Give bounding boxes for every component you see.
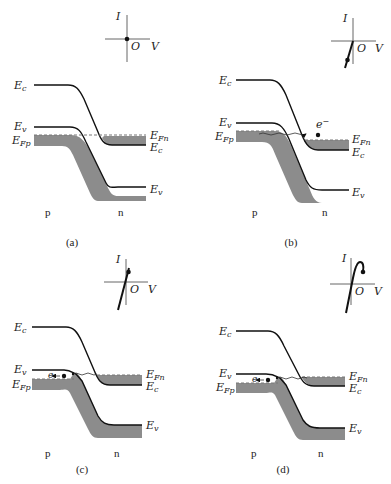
ec-right-label: Ec	[348, 382, 362, 396]
ec-left-label: Ec	[218, 325, 232, 339]
tunnel-start-point	[72, 373, 74, 375]
n-region-label: n	[118, 206, 124, 218]
caption-a: (a)	[66, 236, 79, 249]
panel-d: I O V e Ec Ev EFp EFn Ec Ev p n (d)	[215, 252, 383, 476]
ev-right-label: Ev	[351, 186, 365, 200]
o-label: O	[355, 285, 364, 298]
caption-c: (c)	[76, 463, 89, 476]
p-region-label: p	[251, 447, 257, 459]
i-label: I	[115, 10, 121, 23]
v-label: V	[375, 42, 384, 55]
panel-c: I O V e Ec Ev EFp EFn Ec Ev p n	[11, 253, 165, 476]
n-region-label: n	[318, 447, 324, 459]
caption-b: (b)	[285, 236, 298, 249]
panel-a: I O V Ec Ev EFp EFn Ec Ev p n (a)	[11, 10, 169, 249]
i-label: I	[341, 252, 347, 265]
ev-left-label: Ev	[218, 367, 232, 381]
v-label: V	[148, 283, 157, 296]
ev-right-label: Ev	[145, 419, 159, 433]
v-label: V	[374, 285, 383, 298]
ev-left-label: Ev	[13, 120, 27, 134]
electron-label: e	[48, 370, 53, 380]
electron	[316, 133, 320, 137]
electron	[62, 374, 66, 378]
ec-right-label: Ec	[149, 141, 163, 155]
electron	[266, 378, 270, 382]
efp-label: EFp	[11, 378, 31, 392]
electron-label: e−	[316, 117, 329, 131]
efp-label: EFp	[214, 130, 234, 144]
efp-label: EFp	[215, 381, 235, 395]
tunnel-diode-figure: I O V Ec Ev EFp EFn Ec Ev p n (a)	[0, 0, 391, 484]
ev-right-label: Ev	[149, 183, 163, 197]
band-diagram-d: e Ec Ev EFp EFn Ec Ev p n	[215, 325, 368, 459]
i-label: I	[115, 253, 121, 266]
operating-point	[345, 58, 350, 63]
iv-plot-b: I O V	[331, 12, 384, 68]
efp-label: EFp	[11, 134, 31, 148]
p-region-label: p	[45, 206, 51, 218]
iv-curve	[345, 41, 353, 68]
n-region-label: n	[114, 447, 120, 459]
band-diagram-b: e− Ec Ev EFp EFn Ec Ev p n	[214, 74, 371, 218]
o-label: O	[131, 40, 140, 53]
operating-point	[125, 37, 130, 42]
iv-plot-c: I O V	[104, 253, 157, 310]
iv-plot-a: I O V	[105, 10, 160, 62]
ev-left-label: Ev	[218, 116, 232, 130]
iv-plot-d: I O V	[330, 252, 383, 313]
o-label: O	[130, 283, 139, 296]
ec-left-label: Ec	[13, 321, 27, 335]
p-region-label: p	[252, 206, 258, 218]
band-diagram-c: e Ec Ev EFp EFn Ec Ev p n	[11, 321, 165, 459]
n-region-label: n	[322, 206, 328, 218]
ec-right-label: Ec	[145, 380, 159, 394]
v-label: V	[151, 40, 160, 53]
o-label: O	[357, 42, 366, 55]
n-conduction-fill	[102, 136, 146, 145]
electron-label: e	[252, 374, 257, 384]
ec-left-label: Ec	[218, 74, 232, 88]
caption-d: (d)	[277, 463, 290, 476]
tunnel-start-point	[276, 377, 278, 379]
operating-point	[361, 270, 366, 275]
ev-right-label: Ev	[348, 422, 362, 436]
p-region-label: p	[45, 447, 51, 459]
operating-point	[126, 270, 131, 275]
ec-right-label: Ec	[351, 146, 365, 160]
ec-left-label: Ec	[13, 79, 27, 93]
band-diagram-a: Ec Ev EFp EFn Ec Ev p n	[11, 79, 169, 218]
i-label: I	[342, 12, 348, 25]
efn-label: EFn	[351, 133, 371, 147]
iv-curve	[118, 268, 129, 310]
ev-left-label: Ev	[13, 363, 27, 377]
panel-b: I O V e− Ec Ev EFp EFn Ec Ev p n (b)	[214, 12, 384, 249]
